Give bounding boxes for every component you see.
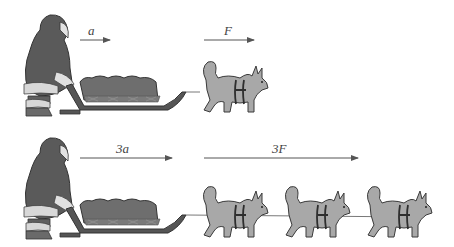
musher-figure <box>24 15 74 116</box>
sled <box>60 76 186 114</box>
scene-one-dog-drawing <box>0 0 454 123</box>
musher-figure <box>24 138 74 239</box>
acceleration-label: a <box>88 23 95 39</box>
dog-1 <box>203 62 268 112</box>
sled <box>60 199 186 237</box>
dog-3 <box>367 187 432 237</box>
acceleration-label: 3a <box>116 141 129 157</box>
scene-one-dog: a F <box>0 0 454 123</box>
force-label: 3F <box>272 141 286 157</box>
scene-three-dogs: 3a 3F <box>0 123 454 247</box>
dog-2 <box>285 187 350 237</box>
force-label: F <box>224 23 232 39</box>
scene-three-dogs-drawing <box>0 123 454 247</box>
dog-1 <box>203 187 268 237</box>
